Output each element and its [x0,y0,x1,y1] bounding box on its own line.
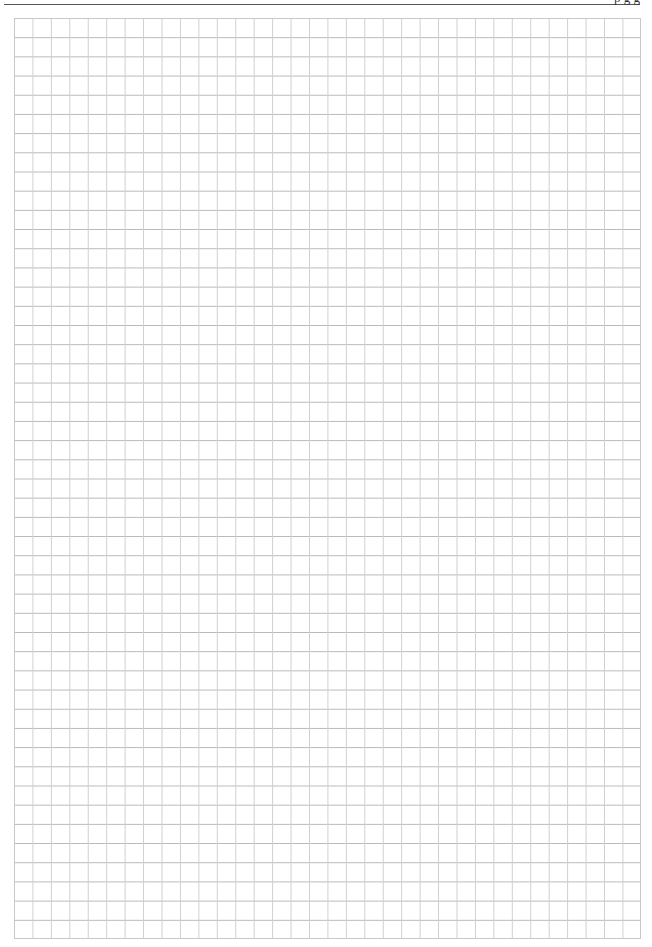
header-rule [4,4,640,5]
running-header: p g g [614,0,640,6]
graph-paper-grid [14,18,641,939]
